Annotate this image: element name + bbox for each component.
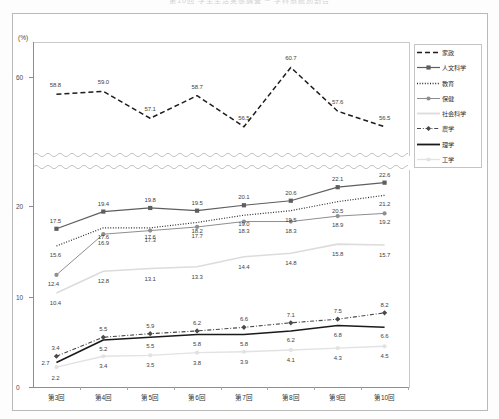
data-label: 12.4 <box>48 281 59 287</box>
series-marker-工学 <box>148 353 152 357</box>
data-label: 17.7 <box>191 233 202 239</box>
data-label: 15.8 <box>332 251 343 257</box>
legend-label: 家政 <box>442 48 454 57</box>
data-label: 19.5 <box>285 217 296 223</box>
data-label: 59.0 <box>98 79 109 85</box>
data-label: 2.7 <box>41 360 49 366</box>
series-marker-工学 <box>336 346 340 350</box>
data-label: 19.8 <box>145 197 156 203</box>
series-marker-人文科学 <box>195 209 199 213</box>
data-label: 17.6 <box>98 234 109 240</box>
data-label: 20.5 <box>332 208 343 214</box>
data-label: 14.4 <box>238 264 249 270</box>
legend-item-人文科学[interactable]: 人文科学 <box>415 60 481 75</box>
chart-figure: 第10回 学生生活実態調査 ─ 学科系統別割合 (%) 6020100 第3回第… <box>0 0 499 419</box>
legend-swatch-icon <box>415 45 442 60</box>
data-label: 57.6 <box>332 99 343 105</box>
series-marker-工学 <box>101 354 105 358</box>
legend-swatch-icon <box>415 152 442 167</box>
series-marker-農学 <box>335 317 340 322</box>
legend-label: 保健 <box>442 94 454 103</box>
data-label: 56.5 <box>379 115 390 121</box>
data-label: 15.6 <box>50 252 61 258</box>
legend: 家政人文科学教育保健社会科学農学理学工学 <box>414 44 482 168</box>
data-label: 5.2 <box>99 346 107 352</box>
data-label: 18.3 <box>285 228 296 234</box>
legend-item-農学[interactable]: 農学 <box>415 121 481 136</box>
data-label: 3.5 <box>146 362 154 368</box>
legend-swatch-icon <box>415 76 442 91</box>
series-marker-工学 <box>242 350 246 354</box>
data-label: 22.6 <box>379 172 390 178</box>
data-label: 13.1 <box>145 276 156 282</box>
data-label: 6.2 <box>193 320 201 326</box>
data-label: 5.5 <box>146 343 154 349</box>
data-label: 7.1 <box>287 312 295 318</box>
series-marker-農学 <box>382 310 387 315</box>
data-label: 14.8 <box>285 260 296 266</box>
series-marker-農学 <box>288 320 293 325</box>
series-marker-工学 <box>289 348 293 352</box>
data-label: 8.2 <box>381 302 389 308</box>
data-label: 58.7 <box>191 84 202 90</box>
data-label: 3.4 <box>99 363 107 369</box>
data-label: 22.1 <box>332 176 343 182</box>
series-marker-人文科学 <box>336 185 340 189</box>
series-marker-人文科学 <box>289 199 293 203</box>
data-label: 60.7 <box>285 55 296 61</box>
data-label: 4.5 <box>381 353 389 359</box>
legend-swatch-icon <box>415 60 442 75</box>
legend-label: 社会科学 <box>442 109 466 118</box>
data-label: 16.9 <box>98 240 109 246</box>
series-marker-農学 <box>241 325 246 330</box>
legend-label: 教育 <box>442 79 454 88</box>
data-label: 6.8 <box>334 332 342 338</box>
data-label: 18.3 <box>238 228 249 234</box>
series-marker-人文科学 <box>54 227 58 231</box>
series-marker-保健 <box>54 273 58 277</box>
data-label: 58.8 <box>50 82 61 88</box>
data-label: 3.9 <box>240 359 248 365</box>
legend-item-理学[interactable]: 理学 <box>415 137 481 152</box>
data-label: 20.1 <box>238 194 249 200</box>
data-label: 18.9 <box>332 222 343 228</box>
legend-swatch-icon <box>415 106 442 121</box>
series-marker-人文科学 <box>382 181 386 185</box>
series-marker-人文科学 <box>148 206 152 210</box>
series-marker-工学 <box>54 365 58 369</box>
data-label: 15.7 <box>379 252 390 258</box>
data-label: 4.3 <box>334 355 342 361</box>
data-label: 10.4 <box>50 300 61 306</box>
legend-item-工学[interactable]: 工学 <box>415 152 481 167</box>
data-label: 5.8 <box>240 341 248 347</box>
data-label: 57.1 <box>145 106 156 112</box>
legend-item-家政[interactable]: 家政 <box>415 45 481 60</box>
data-label: 17.3 <box>145 237 156 243</box>
data-label: 19.4 <box>98 201 109 207</box>
series-marker-農学 <box>148 331 153 336</box>
series-marker-保健 <box>336 214 340 218</box>
data-label: 3.8 <box>193 360 201 366</box>
data-label: 17.5 <box>50 218 61 224</box>
legend-item-社会科学[interactable]: 社会科学 <box>415 106 481 121</box>
data-label: 6.6 <box>240 316 248 322</box>
series-marker-保健 <box>382 211 386 215</box>
series-marker-工学 <box>195 351 199 355</box>
series-marker-保健 <box>148 228 152 232</box>
series-marker-農学 <box>54 354 59 359</box>
legend-item-保健[interactable]: 保健 <box>415 91 481 106</box>
data-label: 2.2 <box>51 375 59 381</box>
data-label: 5.8 <box>193 341 201 347</box>
legend-label: 農学 <box>442 124 454 133</box>
legend-swatch-icon <box>415 137 442 152</box>
data-label: 19.5 <box>191 200 202 206</box>
legend-label: 人文科学 <box>442 63 466 72</box>
legend-label: 理学 <box>442 140 454 149</box>
legend-item-教育[interactable]: 教育 <box>415 76 481 91</box>
data-label: 56.5 <box>238 115 249 121</box>
data-label: 5.5 <box>99 326 107 332</box>
series-line-家政 <box>56 67 384 126</box>
legend-swatch-icon <box>415 91 442 106</box>
data-label: 19.2 <box>379 219 390 225</box>
data-label: 7.5 <box>334 308 342 314</box>
